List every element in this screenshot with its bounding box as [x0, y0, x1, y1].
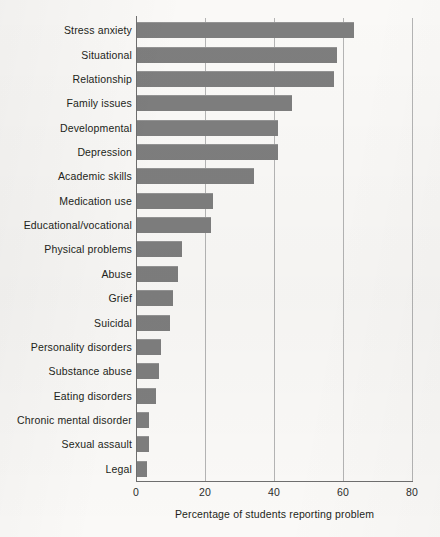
bar — [137, 266, 178, 282]
category-label: Legal — [106, 463, 132, 475]
bar — [137, 22, 354, 38]
bar — [137, 217, 211, 233]
bar — [137, 95, 292, 111]
bar-row: Personality disorders — [0, 335, 440, 359]
bar — [137, 71, 334, 87]
category-label: Abuse — [101, 268, 132, 280]
category-label: Physical problems — [44, 243, 132, 255]
x-tick-label: 20 — [199, 486, 211, 498]
category-label: Personality disorders — [31, 341, 132, 353]
category-label: Family issues — [66, 97, 132, 109]
bar-row: Substance abuse — [0, 359, 440, 383]
category-label: Relationship — [72, 73, 132, 85]
bar-row: Grief — [0, 286, 440, 310]
bar — [137, 412, 149, 428]
bar — [137, 339, 161, 355]
bar — [137, 144, 278, 160]
chart-page: 020406080 Stress anxietySituationalRelat… — [0, 0, 440, 537]
category-label: Academic skills — [58, 170, 132, 182]
bar-row: Physical problems — [0, 237, 440, 261]
bar-row: Educational/vocational — [0, 213, 440, 237]
category-label: Substance abuse — [49, 365, 132, 377]
bar — [137, 168, 254, 184]
x-tick-label: 40 — [268, 486, 280, 498]
x-axis-title: Percentage of students reporting problem — [136, 508, 413, 520]
bar — [137, 193, 213, 209]
category-label: Situational — [81, 49, 132, 61]
bar-row: Medication use — [0, 189, 440, 213]
category-label: Developmental — [60, 122, 132, 134]
bar-row: Abuse — [0, 262, 440, 286]
bar — [137, 315, 170, 331]
category-label: Educational/vocational — [24, 219, 132, 231]
bar — [137, 388, 156, 404]
bar — [137, 436, 149, 452]
category-label: Grief — [108, 292, 132, 304]
bar-row: Depression — [0, 140, 440, 164]
category-label: Stress anxiety — [64, 24, 132, 36]
x-axis-line — [136, 481, 413, 482]
bar-row: Situational — [0, 42, 440, 66]
horizontal-bar-chart: 020406080 Stress anxietySituationalRelat… — [0, 0, 440, 537]
category-label: Chronic mental disorder — [17, 414, 132, 426]
bar-row: Suicidal — [0, 310, 440, 334]
category-label: Suicidal — [94, 317, 132, 329]
bar-row: Eating disorders — [0, 384, 440, 408]
bar — [137, 47, 337, 63]
bar-row: Sexual assault — [0, 432, 440, 456]
bar — [137, 290, 173, 306]
x-tick-label: 60 — [337, 486, 349, 498]
category-label: Sexual assault — [62, 438, 132, 450]
category-label: Eating disorders — [54, 390, 132, 402]
bar-row: Chronic mental disorder — [0, 408, 440, 432]
category-label: Depression — [77, 146, 132, 158]
bar-row: Stress anxiety — [0, 18, 440, 42]
bar-row: Academic skills — [0, 164, 440, 188]
bar-row: Legal — [0, 457, 440, 481]
x-tick-label: 80 — [406, 486, 418, 498]
bar — [137, 120, 278, 136]
bar-row: Family issues — [0, 91, 440, 115]
bar-row: Relationship — [0, 67, 440, 91]
x-tick-label: 0 — [133, 486, 139, 498]
bar — [137, 241, 182, 257]
category-label: Medication use — [59, 195, 132, 207]
bar — [137, 363, 159, 379]
bar — [137, 461, 147, 477]
bar-row: Developmental — [0, 115, 440, 139]
bars-group: Stress anxietySituationalRelationshipFam… — [0, 18, 440, 481]
